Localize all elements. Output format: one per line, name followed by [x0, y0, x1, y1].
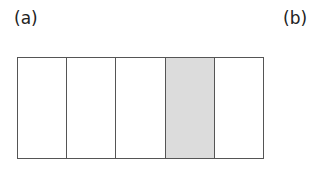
fraction-strip: [17, 57, 264, 159]
figure-label-a: (a): [14, 10, 38, 27]
strip-cell-5: [215, 58, 263, 158]
strip-cell-2: [67, 58, 116, 158]
strip-cell-3: [116, 58, 165, 158]
strip-cell-4-shaded: [166, 58, 215, 158]
figure-label-b: (b): [283, 10, 307, 27]
strip-cell-1: [18, 58, 67, 158]
